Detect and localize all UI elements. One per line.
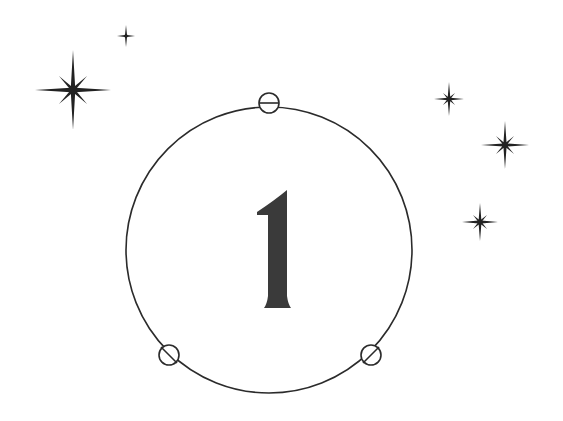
star-icon — [35, 50, 111, 130]
star-icon — [481, 121, 529, 169]
star-icon — [434, 82, 464, 116]
numeral-one — [257, 190, 291, 308]
star-icon — [462, 203, 498, 241]
star-icon — [117, 25, 135, 47]
numerology-illustration — [0, 0, 563, 421]
